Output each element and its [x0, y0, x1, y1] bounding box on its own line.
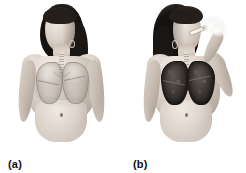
navel — [185, 113, 188, 117]
panel-b-label: (b) — [133, 158, 148, 170]
illustration-b — [123, 0, 246, 150]
figure-root: (a) — [0, 0, 246, 173]
smoke-icon — [211, 24, 227, 36]
navel — [60, 113, 63, 117]
ribcage-shading — [34, 66, 90, 106]
panel-a-label: (a) — [8, 158, 22, 170]
hair-front-icon — [169, 6, 203, 24]
hair-front-icon — [43, 7, 77, 24]
lung-right-diseased — [187, 61, 215, 105]
waist-abdomen — [160, 100, 212, 142]
earring-icon — [69, 40, 75, 48]
panel-a-healthy: (a) — [0, 0, 123, 173]
illustration-a — [0, 0, 123, 150]
panel-b-smoker: (b) — [123, 0, 246, 173]
waist-abdomen — [35, 100, 87, 142]
